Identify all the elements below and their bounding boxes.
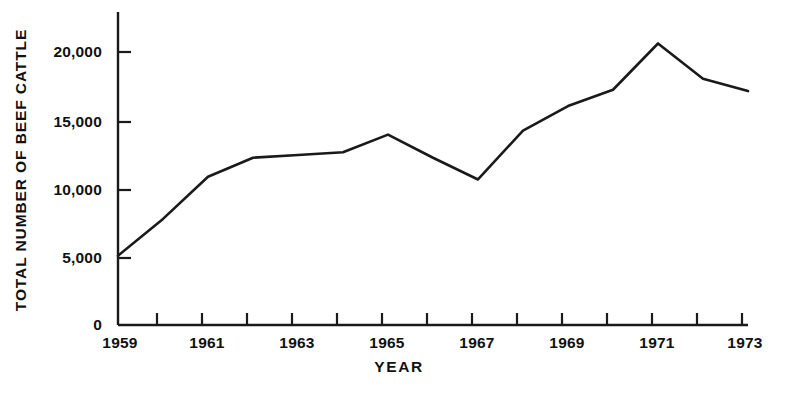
x-tick-label-1969: 1969 [549,334,584,352]
x-tick-label-1963: 1963 [279,334,314,352]
x-tick-label-1959: 1959 [102,334,137,352]
x-tick-label-1971: 1971 [639,334,674,352]
data-series-line [118,43,748,255]
y-tick-label-20000: 20,000 [28,43,102,61]
y-tick-label-10000: 10,000 [28,181,102,199]
x-tick-label-1965: 1965 [369,334,404,352]
y-axis-ticks [118,52,131,258]
x-tick-label-1967: 1967 [459,334,494,352]
chart-figure: 20,000 15,000 10,000 5,000 0 1959 1961 1… [0,0,798,394]
y-tick-label-0: 0 [28,316,102,334]
y-axis-title: TOTAL NUMBER OF BEEF CATTLE [8,0,34,340]
x-tick-label-1961: 1961 [189,334,224,352]
y-tick-label-15000: 15,000 [28,113,102,131]
y-tick-label-5000: 5,000 [28,249,102,267]
y-axis-title-text: TOTAL NUMBER OF BEEF CATTLE [12,29,30,311]
x-axis-ticks [157,313,742,325]
x-axis-title: YEAR [0,358,798,376]
x-tick-label-1973: 1973 [727,334,762,352]
